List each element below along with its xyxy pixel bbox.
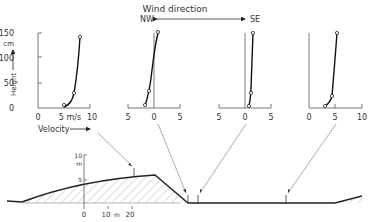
se-label: SE: [250, 15, 260, 24]
nw-label: NW: [140, 15, 154, 24]
svg-text:150: 150: [0, 29, 14, 38]
svg-text:m: m: [76, 160, 82, 167]
dune-cross-section: 10 m 5 0 10 m 20: [7, 152, 364, 219]
svg-text:0: 0: [151, 113, 156, 122]
wind-direction-indicator: Wind direction NW SE: [140, 4, 260, 24]
svg-text:0: 0: [82, 211, 86, 219]
velocity-profile-1: 150 cm 100 50 0 Height 0 5 m/s 10 Veloci…: [0, 29, 97, 134]
svg-text:5: 5: [216, 113, 221, 122]
svg-text:5: 5: [177, 113, 182, 122]
svg-text:5 m/s: 5 m/s: [59, 113, 81, 122]
svg-text:cm: cm: [3, 40, 14, 48]
svg-text:m: m: [114, 211, 120, 218]
svg-text:0: 0: [35, 113, 40, 122]
svg-text:100: 100: [0, 54, 14, 63]
velocity-label: Velocity: [38, 125, 70, 134]
svg-text:0: 0: [306, 113, 311, 122]
svg-text:5: 5: [125, 113, 130, 122]
velocity-profile-4: 0 5 10: [306, 31, 367, 122]
wind-direction-label: Wind direction: [143, 4, 208, 14]
velocity-profile-2: 5 0 5: [125, 30, 182, 122]
velocity-profile-3: 5 0 5: [216, 31, 273, 122]
svg-text:10: 10: [357, 113, 367, 122]
svg-text:5: 5: [78, 176, 82, 183]
height-axis-label: Height: [10, 73, 18, 96]
svg-text:5: 5: [332, 113, 337, 122]
svg-text:10: 10: [102, 211, 111, 219]
svg-text:0: 0: [9, 104, 14, 113]
svg-text:5: 5: [268, 113, 273, 122]
dune-wind-diagram: Wind direction NW SE 150 cm 100 50 0 Hei…: [0, 0, 374, 222]
svg-text:20: 20: [126, 211, 135, 219]
svg-text:10: 10: [74, 152, 82, 159]
svg-text:10: 10: [87, 113, 97, 122]
svg-text:0: 0: [242, 113, 247, 122]
